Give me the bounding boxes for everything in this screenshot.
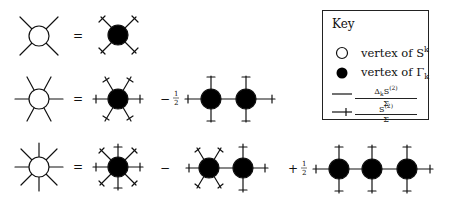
row2-equals: = [73,92,83,106]
plain-line-icon [331,85,353,103]
row3-lhs-open-vertex [15,143,63,191]
key-title: Key [332,17,355,31]
key-item-open-vertex: vertex of Sk [323,44,428,62]
row2-lhs-open-vertex [15,77,63,121]
key-item-ticked-line: S(2) Σ [323,103,428,121]
row1-rhs-filled-vertex [99,16,138,54]
row3-half-coef: 12 [301,160,307,177]
svg-text:2: 2 [302,169,306,177]
row2-half-coef: 12 [173,90,179,107]
row3-equals: = [73,160,83,174]
row3-plus: + [288,162,298,176]
row3-term2-two-vertices [186,144,268,192]
key-item-filled-vertex: vertex of Γk [323,64,428,82]
svg-text:1: 1 [302,160,306,168]
insertion-fraction: S(2) Σ [355,101,417,124]
filled-circle-icon [331,64,353,82]
row3-term3-three-vertices [313,145,433,193]
svg-text:1: 1 [174,90,178,98]
row1-equals: = [73,29,83,43]
row2-term2-two-vertices [185,76,275,122]
row3-minus: − [160,161,170,175]
svg-text:2: 2 [174,99,178,107]
open-circle-icon [331,44,353,62]
row1-lhs-open-vertex [20,17,58,55]
ticked-line-icon [331,103,353,121]
row3-term1-filled-vertex [93,144,143,190]
key-legend: Key vertex of Sk vertex of Γk ΔkS(2) Σ S… [322,10,429,120]
row2-term1-filled-vertex [93,77,143,121]
row2-minus: − [160,92,170,106]
